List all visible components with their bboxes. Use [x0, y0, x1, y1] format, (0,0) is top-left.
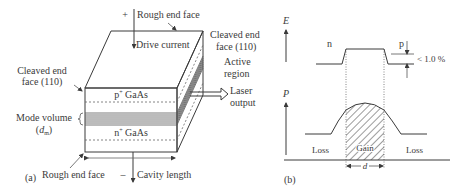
p-label: p	[399, 38, 404, 49]
mode-volume-symbol: (dm)	[36, 124, 52, 136]
panel-b-label: (b)	[284, 174, 296, 186]
minus-terminal: –	[120, 169, 127, 180]
cleaved-right-label-1: Cleaved end	[210, 29, 260, 40]
active-region-label-1: Active	[224, 56, 251, 67]
n-label: n	[327, 38, 332, 49]
cleaved-left-label-1: Cleaved end	[17, 65, 67, 76]
rough-end-face-top-pointer	[168, 23, 176, 30]
laser-diode-diagram: p+ GaAs n+ GaAs + Rough end face Drive c…	[0, 0, 471, 189]
panel-a: p+ GaAs n+ GaAs + Rough end face Drive c…	[16, 9, 260, 184]
energy-axis-label: E	[282, 15, 289, 26]
rough-end-face-bottom-pointer	[70, 154, 83, 168]
laser-output-label-2: output	[230, 97, 256, 108]
panel-a-label: (a)	[25, 172, 36, 184]
plus-terminal: +	[122, 9, 128, 20]
p-gaas-label: p+ GaAs	[114, 89, 148, 100]
loss-right-label: Loss	[406, 145, 424, 155]
index-step-label: < 1.0 %	[417, 54, 446, 64]
n-gaas-label: n+ GaAs	[114, 127, 148, 138]
cleaved-left-pointer	[74, 85, 82, 91]
drive-current-label: Drive current	[136, 39, 190, 50]
loss-left-label: Loss	[312, 145, 330, 155]
index-profile-curve	[316, 49, 414, 64]
laser-output-label-1: Laser	[230, 85, 253, 96]
panel-b: E n p < 1.0 % P Gain Loss Loss d (b)	[282, 15, 450, 186]
cavity-length-label: Cavity length	[137, 169, 191, 180]
mode-volume-label: Mode volume	[16, 112, 72, 123]
active-region-label-2: region	[224, 68, 250, 79]
width-label: d	[363, 161, 368, 171]
active-layer-stripes	[85, 113, 177, 125]
power-axis-label: P	[282, 88, 289, 99]
mode-volume-brace	[78, 113, 83, 125]
rough-end-face-top-label: Rough end face	[137, 9, 200, 20]
cleaved-left-label-2: face (110)	[22, 76, 62, 88]
cleaved-right-label-2: face (110)	[216, 41, 256, 53]
gain-label: Gain	[356, 143, 374, 153]
rough-end-face-bottom-label: Rough end face	[42, 169, 105, 180]
